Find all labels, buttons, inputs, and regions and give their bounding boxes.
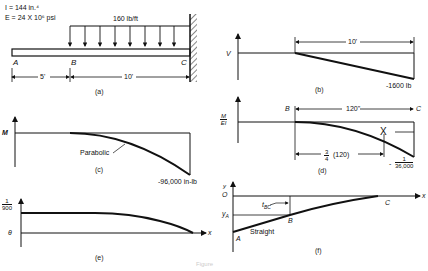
panel-c-caption: (c) [95,166,103,173]
d-end-value: 1 36,000 [395,156,413,169]
point-b-label-f: B [288,217,293,224]
diagram-canvas [0,0,428,271]
figure-caption: Figure [196,261,213,267]
elastic-modulus-label: E = 24 X 10⁶ psi [5,14,56,21]
point-c-label-f: C [385,199,390,206]
point-a-label: A [13,59,18,67]
point-a-label-f: A [236,235,241,242]
f-x-axis-label: x [422,192,426,199]
centroid-dim-text: (120) [333,151,349,158]
point-c-label: C [181,59,187,67]
parabolic-label: Parabolic [80,149,109,156]
shear-span-label: 10' [348,38,357,45]
panel-e-caption: (e) [95,254,104,261]
tbc-label: tBC [262,201,271,210]
straight-label: Straight [250,228,274,235]
shear-axis-label: V [226,50,231,57]
shear-end-value: -1600 lb [386,82,411,89]
centroid-x-mark: X [380,127,387,137]
y-axis-label: y [223,183,226,189]
panel-b-caption: (b) [315,86,324,93]
point-b-label-d: B [285,105,290,112]
panel-b-shear-diagram [238,34,414,80]
panel-d-caption: (d) [318,167,327,174]
panel-a-caption: (a) [95,88,104,95]
dim-ab-label: 5' [40,73,45,80]
distributed-load-label: 160 lb/ft [113,15,138,22]
point-b-label: B [71,59,76,67]
panel-f-deflection-diagram [233,182,420,252]
slope-value-label: 1 900 [2,198,12,211]
panel-e-slope-diagram [21,199,206,247]
m-over-ei-axis-label: M EI [220,113,227,126]
moment-of-inertia-label: I = 144 in.⁴ [5,4,39,11]
moment-end-value: -96,000 in-lb [158,178,197,185]
origin-label: O [222,191,227,198]
ya-label: yA [222,210,229,219]
moment-axis-label: M [2,129,8,136]
e-x-axis-label: x [208,229,212,236]
theta-axis-label: θ [8,229,12,236]
panel-a-beam [12,14,197,82]
d-end-sign: - [389,160,391,167]
panel-f-caption: (f) [315,247,322,254]
d-span-label: 120" [346,105,360,112]
centroid-fraction: 3 4 [324,149,329,162]
dim-bc-label: 10' [124,73,133,80]
point-c-label-d: C [416,105,421,112]
